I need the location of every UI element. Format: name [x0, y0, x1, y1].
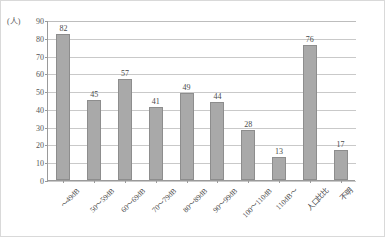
y-tick-label: 30: [36, 123, 44, 132]
bar-slot: 76: [294, 20, 325, 180]
bar-chart-figure: (人) 9080706050403020100 8245574149442813…: [0, 0, 385, 237]
bar-slot: 41: [140, 20, 171, 180]
x-label-slot: 50～59dB: [78, 183, 109, 237]
x-label-slot: 60～69dB: [109, 183, 140, 237]
bar-slot: 49: [171, 20, 202, 180]
x-label-slot: 110dB～: [263, 183, 294, 237]
bar-slot: 44: [202, 20, 233, 180]
bar-value-label: 57: [121, 69, 129, 78]
bar-slot: 17: [325, 20, 356, 180]
bar-value-label: 28: [244, 120, 252, 129]
bar-value-label: 44: [213, 92, 221, 101]
x-label-slot: 不明: [324, 183, 355, 237]
x-label-slot: 90～99dB: [201, 183, 232, 237]
bar[interactable]: [56, 34, 70, 180]
y-tick-label: 80: [36, 34, 44, 43]
y-tick-mark: [45, 181, 48, 182]
y-tick-label: 70: [36, 52, 44, 61]
bar-series: 82455741494428137617: [48, 20, 356, 180]
bar-value-label: 41: [152, 97, 160, 106]
bar[interactable]: [241, 130, 255, 180]
bar-slot: 13: [264, 20, 295, 180]
bar[interactable]: [118, 79, 132, 180]
y-tick-label: 20: [36, 141, 44, 150]
y-tick-label: 10: [36, 159, 44, 168]
bar-value-label: 45: [90, 90, 98, 99]
bar-value-label: 17: [337, 140, 345, 149]
x-tick-label: 不明: [337, 185, 355, 203]
bar[interactable]: [149, 107, 163, 180]
x-label-slot: 100～110dB: [232, 183, 263, 237]
x-label-slot: 人口比比: [293, 183, 324, 237]
y-tick-label: 60: [36, 70, 44, 79]
bar-slot: 45: [79, 20, 110, 180]
bar[interactable]: [210, 102, 224, 180]
plot-area: 9080706050403020100 82455741494428137617: [47, 21, 355, 181]
bar-value-label: 13: [275, 147, 283, 156]
x-axis-labels: ～49dB50～59dB60～69dB70～79dB80～89dB90～99dB…: [47, 183, 355, 237]
bar-slot: 82: [48, 20, 79, 180]
y-tick-label: 50: [36, 88, 44, 97]
bar-slot: 28: [233, 20, 264, 180]
bar[interactable]: [180, 93, 194, 180]
y-tick-label: 0: [40, 177, 44, 186]
x-label-slot: ～49dB: [47, 183, 78, 237]
bar-value-label: 76: [306, 35, 314, 44]
y-tick-label: 40: [36, 105, 44, 114]
bar-value-label: 82: [59, 24, 67, 33]
x-label-slot: 80～89dB: [170, 183, 201, 237]
bar[interactable]: [87, 100, 101, 180]
y-axis-unit-label: (人): [7, 15, 20, 26]
bar-slot: 57: [110, 20, 141, 180]
bar[interactable]: [303, 45, 317, 180]
bar-value-label: 49: [183, 83, 191, 92]
y-tick-label: 90: [36, 17, 44, 26]
bar[interactable]: [334, 150, 348, 180]
bar[interactable]: [272, 157, 286, 180]
x-label-slot: 70～79dB: [139, 183, 170, 237]
